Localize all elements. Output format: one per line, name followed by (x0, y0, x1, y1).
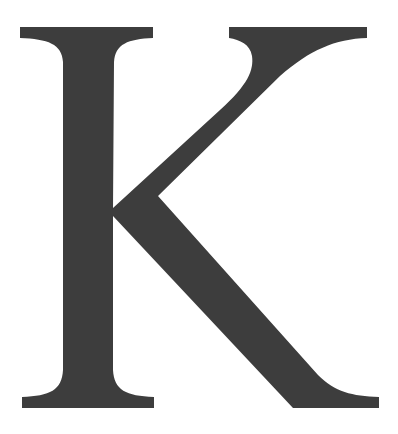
letter-k-glyph: K (0, 0, 398, 434)
letter-k-shape (0, 0, 398, 434)
